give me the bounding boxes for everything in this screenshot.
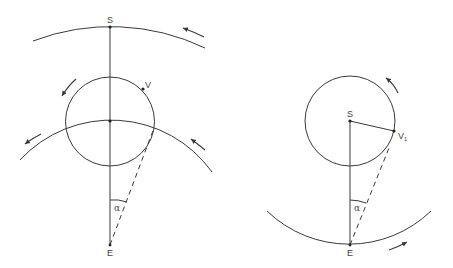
label-planet-right: V1 xyxy=(398,131,408,142)
outer-orbit-arrow-icon xyxy=(183,28,204,37)
epicycle-center-point xyxy=(108,119,111,122)
right-diagram: S V1 α E xyxy=(267,76,431,258)
earth-orbit-arrow-icon xyxy=(389,242,407,250)
outer-orbit-arc xyxy=(33,27,205,48)
label-alpha-left: α xyxy=(114,203,120,213)
label-alpha-right: α xyxy=(354,203,360,213)
sun-point-right xyxy=(348,119,351,122)
label-planet-left: V xyxy=(145,80,151,90)
sun-point xyxy=(108,25,111,28)
label-sun-left: S xyxy=(107,15,113,25)
deferent-arc xyxy=(20,120,212,172)
label-earth-right: E xyxy=(347,248,353,258)
label-sun-right: S xyxy=(347,109,353,119)
angle-alpha-arc xyxy=(110,200,127,202)
diagram-canvas: S V α E S V1 α E xyxy=(0,0,453,268)
earth-point xyxy=(109,244,112,247)
left-diagram: S V α E xyxy=(20,15,212,258)
planet-point-right xyxy=(392,129,395,132)
deferent-right-arrow-icon xyxy=(191,139,205,150)
planet-orbit-arrow-icon xyxy=(386,78,398,93)
epicycle-arrow-icon xyxy=(62,79,76,96)
deferent-left-arrow-icon xyxy=(25,134,41,144)
label-earth-left: E xyxy=(107,248,113,258)
label-planet-right-sub: 1 xyxy=(404,136,408,142)
earth-orbit-arc xyxy=(267,211,431,244)
earth-point-right xyxy=(349,244,352,247)
line-of-sight-dashed-right xyxy=(350,148,389,245)
sun-planet-radius xyxy=(350,121,394,131)
